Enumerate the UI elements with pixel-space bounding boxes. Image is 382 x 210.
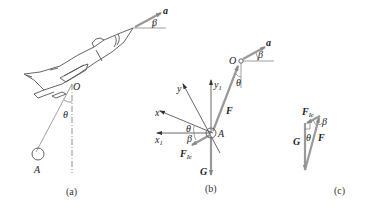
beta-label-b: β xyxy=(257,49,263,60)
theta-label: θ xyxy=(63,109,68,120)
panel-c: FIe β G θ F (c) xyxy=(293,106,345,197)
force-FIe-label: FIe xyxy=(179,148,192,160)
force-F-vector-c xyxy=(305,118,319,170)
beta-arc-A xyxy=(194,133,196,140)
accel-label-b: a xyxy=(266,37,271,48)
caption-c: (c) xyxy=(334,185,345,197)
force-FIe-label-c: FIe xyxy=(301,106,314,118)
force-F-label: F xyxy=(225,105,233,116)
x-label: x xyxy=(154,107,160,118)
pivot-label-O: O xyxy=(73,81,80,92)
acceleration-vector-a xyxy=(135,13,161,27)
beta-label-c: β xyxy=(321,116,327,127)
force-F-label-c: F xyxy=(317,132,325,143)
pivot-label-O-b: O xyxy=(229,55,236,66)
caption-a: (a) xyxy=(66,186,77,198)
beta-label-A: β xyxy=(186,133,192,144)
beta-label: β xyxy=(151,17,157,28)
accel-label: a xyxy=(163,5,168,16)
theta-label-top: θ xyxy=(236,77,241,88)
point-label-A: A xyxy=(217,128,225,139)
theta-label-c: θ xyxy=(306,132,311,143)
y-label: y xyxy=(176,83,182,94)
pendulum-bob-A xyxy=(32,148,44,160)
y1-label: y1 xyxy=(213,79,222,91)
gravity-G-label-c: G xyxy=(293,136,301,147)
panel-b: O a β θ y1 y x x1 θ β F FIe G A (b xyxy=(154,37,274,195)
theta-arc-A xyxy=(194,126,195,133)
bob-label-A: A xyxy=(33,164,41,175)
panel-a: a β O θ A (a) xyxy=(24,5,168,198)
dashed-helper xyxy=(313,120,316,125)
x1-label: x1 xyxy=(154,134,163,146)
force-F-vector xyxy=(213,66,238,131)
theta-arc xyxy=(64,100,72,102)
caption-b: (b) xyxy=(205,183,217,195)
gravity-G-label: G xyxy=(200,166,208,177)
physics-diagram: a β O θ A (a) O a β θ y1 y x xyxy=(0,0,382,210)
pivot-O-circle xyxy=(239,59,243,63)
